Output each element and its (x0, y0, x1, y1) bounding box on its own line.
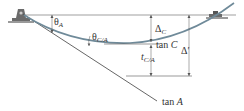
tan-c-variable: C (171, 39, 178, 50)
beam-deflection-diagram (0, 0, 244, 111)
tan-a-label: tan A (162, 97, 183, 107)
t-ca-subscript: C/A (144, 56, 155, 64)
theta-ca-label: θC/A (92, 32, 108, 44)
tan-a-variable: A (177, 96, 183, 107)
delta-c-label: ΔC (155, 24, 166, 36)
t-ca-label: tC/A (141, 52, 155, 64)
tan-c-label: tan C (156, 40, 177, 50)
delta-prime-label: Δ′ (181, 46, 190, 56)
tangent-line-a (23, 14, 157, 101)
theta-a-subscript: A (59, 21, 63, 29)
theta-ca-subscript: C/A (97, 36, 108, 44)
delta-c-subscript: C (161, 28, 166, 36)
tan-text: tan (162, 96, 177, 107)
theta-a-label: θA (54, 17, 63, 29)
delta-prime-symbol: Δ′ (181, 45, 190, 56)
pin-support-icon (8, 9, 34, 23)
tan-text: tan (156, 39, 171, 50)
